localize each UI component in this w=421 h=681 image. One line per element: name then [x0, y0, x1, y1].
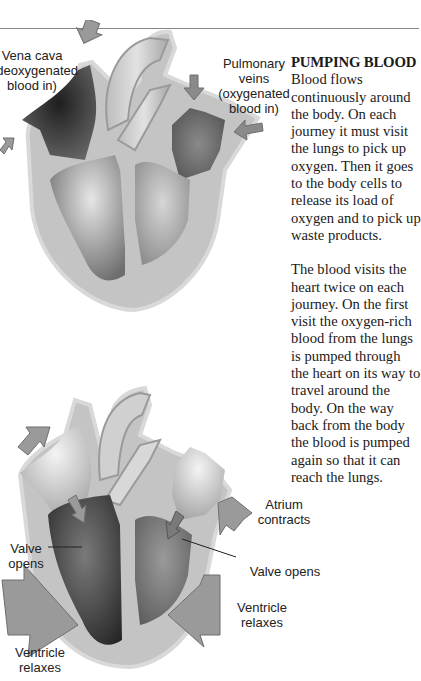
label-valve-opens-right: Valve opens [242, 564, 328, 579]
article-paragraph: Blood flows continuously around the body… [291, 71, 421, 244]
article-paragraph: The blood visits the heart twice on each… [291, 261, 421, 486]
heart-diagram-bottom [0, 385, 290, 681]
article-heading: PUMPING BLOOD [291, 54, 421, 71]
label-valve-opens-left: Valve opens [4, 541, 48, 571]
label-ventricle-relaxes-right: Ventricle relaxes [230, 600, 294, 630]
arrow-icon [0, 138, 14, 154]
label-pulmonary-veins: Pulmonary veins (oxygenated blood in) [216, 56, 292, 116]
label-vena-cava: Vena cava (deoxygenated blood in) [0, 48, 72, 93]
article-column: PUMPING BLOOD Blood flows continuously a… [291, 54, 421, 503]
label-ventricle-relaxes-left: Ventricle relaxes [8, 645, 72, 675]
arrow-icon [73, 20, 106, 48]
